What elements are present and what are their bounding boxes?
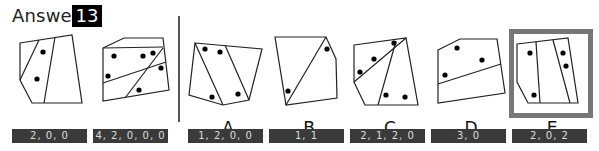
option-c-counts: 2, 1, 2, 0 [350, 129, 425, 143]
option-d-counts: 3, 0 [431, 129, 506, 143]
option-figure-a[interactable] [189, 43, 262, 105]
option-a-counts: 1, 2, 0, 0 [188, 129, 263, 143]
example-1-counts: 2, 0, 0 [12, 129, 87, 143]
option-figure-c[interactable] [354, 38, 418, 105]
selected-answer-highlight [509, 29, 593, 118]
option-e-counts: 2, 0, 2 [512, 129, 587, 143]
example-figure-2 [103, 38, 169, 101]
option-b-counts: 1, 1 [269, 129, 344, 143]
example-figure-1 [20, 35, 82, 103]
option-figure-d[interactable] [438, 39, 505, 103]
option-figure-b[interactable] [275, 37, 337, 105]
example-2-counts: 4, 2, 0, 0, 0 [93, 129, 168, 143]
